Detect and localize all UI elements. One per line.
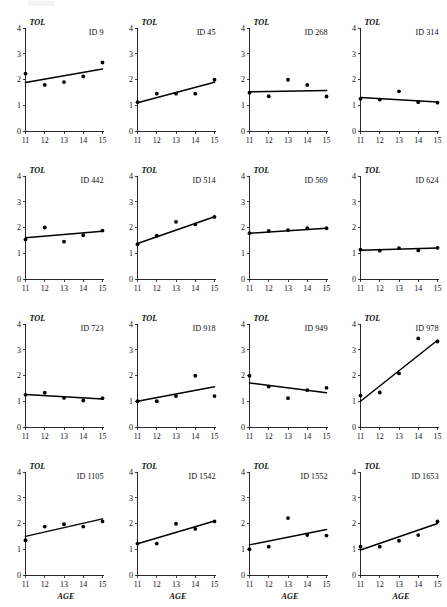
panel-id-1105: TOLID 1105012341112131415AGE: [0, 444, 112, 607]
x-tick-label: 15: [434, 580, 442, 589]
y-tick-label: 1: [17, 249, 21, 258]
y-tick-label: 1: [241, 249, 245, 258]
y-tick-label: 0: [129, 275, 133, 284]
y-tick-label: 0: [129, 127, 133, 136]
y-axis-label: TOL: [141, 462, 157, 471]
data-point: [359, 394, 363, 398]
data-point: [305, 83, 309, 87]
y-tick-label: 0: [17, 275, 21, 284]
y-axis-label: TOL: [141, 166, 157, 175]
data-point: [305, 388, 309, 392]
x-tick-label: 12: [41, 432, 49, 441]
y-tick-label: 3: [129, 346, 133, 355]
y-tick-label: 1: [352, 249, 356, 258]
x-tick-label: 12: [264, 580, 272, 589]
x-axis-label: AGE: [280, 592, 298, 601]
y-tick-label: 2: [241, 519, 245, 528]
data-point: [101, 229, 105, 233]
y-tick-label: 2: [352, 371, 356, 380]
data-point: [417, 100, 421, 104]
x-tick-label: 13: [60, 136, 68, 145]
y-tick-label: 0: [17, 423, 21, 432]
y-tick-label: 3: [129, 198, 133, 207]
x-tick-label: 15: [99, 580, 107, 589]
y-tick-label: 3: [352, 50, 356, 59]
y-tick-label: 0: [241, 275, 245, 284]
x-tick-label: 11: [245, 432, 253, 441]
x-tick-label: 14: [79, 284, 87, 293]
data-point: [174, 220, 178, 224]
y-tick-label: 3: [129, 494, 133, 503]
data-point: [417, 249, 421, 253]
y-tick-label: 4: [241, 24, 245, 33]
x-tick-label: 12: [264, 432, 272, 441]
x-tick-label: 15: [322, 580, 330, 589]
data-point: [135, 242, 139, 246]
x-tick-label: 14: [191, 136, 199, 145]
data-point: [43, 226, 47, 230]
panel-id-949: TOLID 949012341112131415AGE: [224, 296, 336, 444]
data-point: [62, 240, 66, 244]
data-point: [155, 234, 159, 238]
y-axis-label: TOL: [253, 166, 269, 175]
y-tick-label: 0: [241, 127, 245, 136]
panel-id-label: ID 569: [304, 176, 327, 185]
y-tick-label: 4: [241, 468, 245, 477]
y-tick-label: 1: [17, 545, 21, 554]
x-tick-label: 15: [99, 284, 107, 293]
data-point: [212, 394, 216, 398]
data-point: [305, 533, 309, 537]
data-point: [247, 91, 251, 95]
data-point: [286, 396, 290, 400]
data-point: [378, 98, 382, 102]
x-tick-label: 15: [99, 432, 107, 441]
x-tick-label: 12: [41, 136, 49, 145]
y-axis-label: TOL: [365, 314, 381, 323]
data-point: [193, 527, 197, 531]
x-tick-label: 15: [210, 136, 218, 145]
regression-line: [361, 340, 438, 401]
data-point: [397, 539, 401, 543]
y-tick-label: 1: [129, 397, 133, 406]
y-axis-label: TOL: [30, 314, 46, 323]
x-tick-label: 15: [322, 136, 330, 145]
data-point: [155, 92, 159, 96]
data-point: [436, 246, 440, 250]
regression-line: [137, 387, 214, 401]
data-point: [417, 337, 421, 341]
regression-line: [249, 383, 326, 393]
data-point: [266, 385, 270, 389]
y-tick-label: 2: [17, 223, 21, 232]
data-point: [266, 94, 270, 98]
y-tick-label: 4: [352, 468, 356, 477]
x-tick-label: 12: [153, 432, 161, 441]
x-tick-label: 12: [153, 136, 161, 145]
data-point: [359, 248, 363, 252]
data-point: [359, 97, 363, 101]
x-tick-label: 13: [172, 580, 180, 589]
panel-id-624: TOLID 624012341112131415AGE: [335, 148, 447, 296]
x-tick-label: 14: [79, 580, 87, 589]
data-point: [247, 231, 251, 235]
data-point: [174, 522, 178, 526]
x-tick-label: 14: [415, 136, 423, 145]
data-point: [324, 95, 328, 99]
data-point: [286, 228, 290, 232]
panel-id-label: ID 442: [81, 176, 104, 185]
panel-id-label: ID 1653: [412, 472, 439, 481]
y-axis-label: TOL: [365, 18, 381, 27]
y-tick-label: 4: [17, 320, 21, 329]
x-tick-label: 14: [191, 284, 199, 293]
data-point: [135, 542, 139, 546]
y-tick-label: 4: [352, 24, 356, 33]
y-tick-label: 3: [352, 198, 356, 207]
x-tick-label: 13: [395, 284, 403, 293]
x-tick-label: 11: [245, 284, 253, 293]
panel-grid: TOLID 9012341112131415AGETOLID 450123411…: [0, 0, 447, 607]
y-tick-label: 3: [241, 494, 245, 503]
x-tick-label: 12: [41, 580, 49, 589]
data-point: [359, 545, 363, 549]
data-point: [324, 226, 328, 230]
y-tick-label: 2: [17, 75, 21, 84]
data-point: [417, 533, 421, 537]
